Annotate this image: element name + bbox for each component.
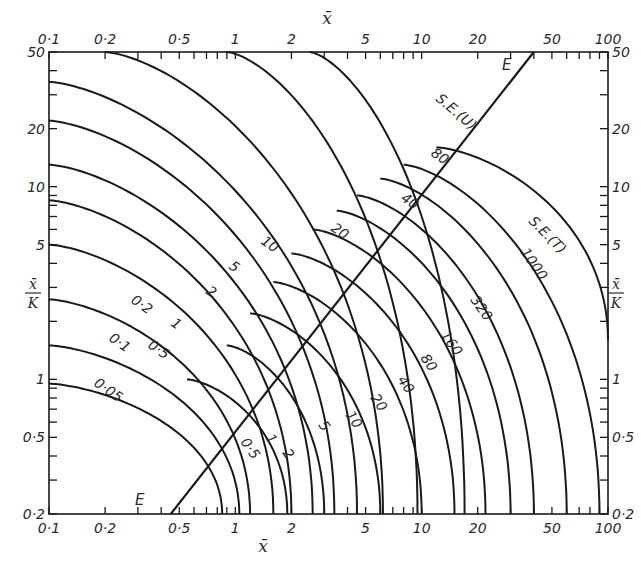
y-tick-right: 0·5	[612, 429, 634, 445]
x-tick-bottom: 100	[595, 520, 622, 536]
x-tick-top: 1	[231, 31, 240, 47]
x-tick-bottom: 50	[543, 520, 561, 536]
y-tick-left: 10	[27, 179, 45, 195]
curve-label-se-t: 40	[395, 373, 418, 397]
y-tick-left: 0·2	[23, 506, 45, 522]
curve-label-se-t: 160	[438, 328, 466, 359]
x-axis-title-top: x̄	[322, 8, 332, 28]
x-tick-bottom: 5	[361, 520, 370, 536]
curve-families: 0·050·10·20·5125102040800·51251020408016…	[49, 52, 608, 514]
nomogram-chart: 0·050·10·20·5125102040800·51251020408016…	[0, 0, 641, 562]
x-tick-top: 5	[361, 31, 370, 47]
y-tick-left: 1	[36, 371, 45, 387]
x-tick-bottom: 2	[287, 520, 296, 536]
y-tick-left: 50	[27, 44, 45, 60]
curve-label-se-u: 5	[226, 257, 243, 275]
x-tick-top: 2	[287, 31, 296, 47]
curve-label-se-t: 1000	[518, 245, 552, 283]
y-axis-title-right: x̄ K	[608, 276, 624, 311]
x-tick-top: 0·2	[94, 31, 116, 47]
y-tick-left: 0·5	[23, 429, 45, 445]
y-tick-left: 5	[36, 237, 45, 253]
svg-text:K: K	[610, 295, 623, 311]
y-tick-right: 20	[612, 121, 630, 137]
x-tick-bottom: 20	[469, 520, 487, 536]
y-tick-right: 5	[612, 237, 621, 253]
y-axis-title-left: x̄ K	[25, 276, 41, 311]
y-tick-right: 1	[612, 371, 621, 387]
curve-label-se-u: 0·5	[145, 336, 172, 362]
curve-se-u	[49, 82, 357, 514]
x-tick-bottom: 10	[413, 520, 431, 536]
curve-label-se-t: 2	[280, 446, 298, 463]
curve-label-se-u: 2	[203, 282, 220, 300]
x-tick-bottom: 0·5	[168, 520, 190, 536]
y-tick-right: 10	[612, 179, 630, 195]
curve-label-se-t: 320	[468, 293, 496, 324]
x-tick-top: 50	[543, 31, 561, 47]
svg-text:x̄: x̄	[29, 276, 37, 292]
family-label-se-u: S.E.(U)	[433, 90, 480, 133]
y-tick-right: 0·2	[612, 506, 634, 522]
curve-label-se-u: 80	[428, 144, 452, 167]
curve-label-se-u: 20	[328, 219, 352, 242]
x-tick-bottom: 0·1	[38, 520, 60, 536]
curve-se-u	[49, 299, 250, 514]
svg-text:K: K	[27, 295, 40, 311]
curve-label-se-t: 5	[316, 418, 334, 435]
line-e-label-bottom: E	[135, 491, 145, 509]
curve-se-u	[49, 345, 239, 514]
curve-label-se-t: 80	[418, 351, 441, 375]
svg-text:x̄: x̄	[612, 276, 620, 292]
curve-se-t	[404, 165, 600, 514]
curve-se-u	[49, 245, 273, 514]
curve-label-se-u: 10	[258, 232, 282, 255]
x-tick-top: 10	[413, 31, 431, 47]
y-tick-left: 20	[27, 121, 45, 137]
curve-se-u	[49, 165, 313, 514]
curve-label-se-u: 0·1	[106, 329, 133, 355]
x-tick-top: 0·5	[168, 31, 190, 47]
x-tick-bottom: 1	[231, 520, 240, 536]
y-tick-right: 50	[612, 44, 630, 60]
x-tick-top: 20	[469, 31, 487, 47]
curve-label-se-u: 0·2	[128, 291, 155, 317]
curve-label-se-u: 1	[168, 314, 184, 332]
x-axis-title-bottom: x̄	[258, 536, 268, 556]
x-tick-bottom: 0·2	[94, 520, 116, 536]
line-e-label-top: E	[502, 56, 512, 74]
